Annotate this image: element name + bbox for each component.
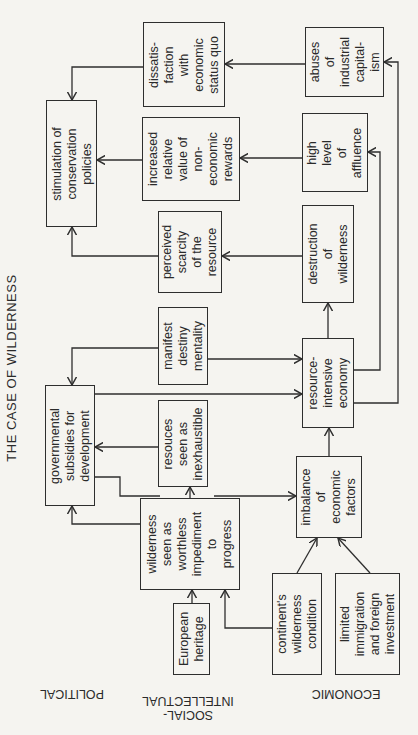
node-label: increased relative value of non- economi… <box>146 132 236 186</box>
node-label: perceived scarcity of the resource <box>160 225 220 279</box>
node-label: manifest destiny mentality <box>161 321 206 371</box>
node-label: limited immigration and foreign investme… <box>338 592 398 657</box>
node-label: abuses of industrial capital- ism <box>307 37 382 87</box>
node-label: governmental subsidies for development <box>48 408 93 484</box>
row-label-social-intellectual: SOCIAL- INTELLECTUAL <box>142 694 234 722</box>
node-label: wilderness seen as worthless impediment … <box>145 512 235 577</box>
node-abuses-industrial-capitalism: abuses of industrial capital- ism <box>305 27 384 97</box>
node-destruction-wilderness: destruction of wilderness <box>302 205 354 303</box>
node-label: resource- intensive economy <box>306 357 351 410</box>
node-continents-wilderness: continent's wilderness condition <box>272 573 322 675</box>
node-label: continent's wilderness condition <box>275 594 320 653</box>
node-resource-intensive-economy: resource- intensive economy <box>302 338 354 428</box>
node-increased-relative-value: increased relative value of non- economi… <box>142 117 240 201</box>
node-label: imbalance of economic factors <box>299 469 359 526</box>
node-manifest-destiny: manifest destiny mentality <box>158 307 208 385</box>
node-wilderness-worthless: wilderness seen as worthless impediment … <box>140 498 240 590</box>
node-european-heritage: European heritage <box>173 603 210 675</box>
node-dissatisfaction: dissatis- faction with economic status q… <box>143 22 225 107</box>
node-resources-inexhaustible: resouces seen as inexhaustible <box>158 400 208 487</box>
node-label: European heritage <box>177 612 207 666</box>
node-label: stimulation of conservation policies <box>49 127 94 201</box>
node-label: dissatis- faction with economic status q… <box>147 36 222 94</box>
node-governmental-subsidies: governmental subsidies for development <box>45 385 95 506</box>
node-label: high level of affluence <box>305 127 365 178</box>
row-label-political: POLITICAL <box>40 687 104 701</box>
diagram-canvas: THE CASE OF WILDERNESS POLITICAL SOCIAL-… <box>0 0 418 735</box>
node-label: resouces seen as inexhaustible <box>161 407 206 480</box>
node-imbalance-economic-factors: imbalance of economic factors <box>296 456 362 538</box>
node-perceived-scarcity: perceived scarcity of the resource <box>158 211 222 293</box>
node-limited-immigration: limited immigration and foreign investme… <box>335 573 400 675</box>
node-label: destruction of wilderness <box>306 223 351 284</box>
node-stimulation-conservation: stimulation of conservation policies <box>46 100 97 227</box>
diagram-title: THE CASE OF WILDERNESS <box>4 274 19 461</box>
row-label-economic: ECONOMIC <box>312 687 381 701</box>
node-high-affluence: high level of affluence <box>302 113 368 192</box>
